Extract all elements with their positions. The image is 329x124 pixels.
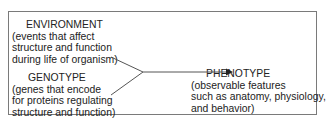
environment-edge — [111, 57, 143, 72]
genotype-edge — [111, 72, 143, 95]
connector-lines — [0, 0, 329, 124]
arrowhead-icon — [226, 69, 233, 76]
